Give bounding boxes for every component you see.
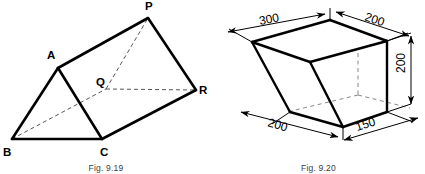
vertex-labels-group: P A Q R B C: [3, 0, 208, 158]
dimension-label-200-bottom-left: 200: [266, 115, 289, 134]
visible-edges-group: [252, 20, 387, 127]
figure-9-20-drawing: 300 200 200 200 150: [212, 0, 425, 160]
vertex-label-b: B: [3, 146, 11, 158]
hidden-edge-b-q: [12, 89, 106, 139]
edge-a-p: [58, 18, 148, 68]
figure-9-19: P A Q R B C Fig. 9.19: [0, 0, 212, 174]
ext-line-right-top: [387, 33, 411, 41]
figure-9-19-drawing: P A Q R B C: [0, 0, 212, 160]
ext-line-right-bottom: [387, 104, 411, 112]
vertex-label-r: R: [199, 84, 208, 96]
figure-caption-left: Fig. 9.19: [0, 163, 212, 173]
hidden-edge-base-back-right: [358, 95, 410, 108]
hidden-edge-q-r: [106, 89, 196, 90]
dim-line-200-bottom-left: [241, 112, 338, 137]
edge-inner-slant: [310, 62, 343, 127]
edge-p-r: [148, 18, 196, 90]
vertex-label-a: A: [47, 49, 55, 61]
hidden-edges-group: [287, 53, 410, 112]
hidden-edge-base-back-left: [287, 95, 358, 112]
edge-a-b: [12, 68, 58, 139]
dimension-label-200-top: 200: [363, 10, 387, 30]
vertex-label-c: C: [100, 146, 108, 158]
vertex-label-p: P: [145, 0, 153, 12]
edge-top-rim-right-front: [310, 41, 387, 62]
dimension-label-200-right: 200: [394, 53, 408, 73]
edge-bottom-front-left: [290, 112, 343, 127]
figure-caption-right: Fig. 9.20: [212, 163, 425, 173]
drawing-page: P A Q R B C Fig. 9.19: [0, 0, 425, 174]
vertex-label-q: Q: [96, 76, 105, 88]
edge-c-r: [102, 90, 196, 139]
figure-9-20: 300 200 200 200 150 Fig. 9.20: [212, 0, 425, 174]
dimension-label-300: 300: [258, 10, 281, 28]
